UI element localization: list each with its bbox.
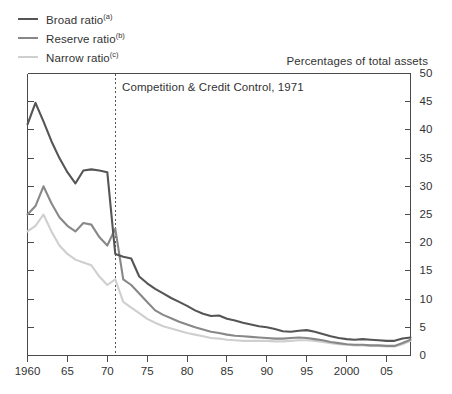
x-axis-tick-labels: 196065707580859095200005 [15,365,393,377]
x-axis-tick-label: 65 [61,365,74,377]
x-axis-tick-label: 75 [141,365,154,377]
series-line-narrow-ratio [28,215,411,347]
axes-group [28,74,411,356]
series-line-broad-ratio [28,103,411,341]
y-axis-tick-label: 15 [420,264,433,276]
x-axis-tick-label: 05 [380,365,393,377]
y-axis-tick-label: 25 [420,208,433,220]
x-axis-tick-label: 2000 [334,365,360,377]
x-axis-tick-label: 70 [101,365,114,377]
x-axis-tick-label: 1960 [15,365,41,377]
series-line-reserve-ratio [28,186,411,346]
y-axis-tick-label: 35 [420,152,433,164]
y-axis-ticks [28,74,411,356]
y-axis-tick-label: 20 [420,236,433,248]
y-axis-tick-label: 50 [420,67,433,79]
y-axis-tick-label: 0 [420,349,426,361]
x-axis-ticks [28,356,387,362]
y-axis-tick-label: 5 [420,321,426,333]
y-axis-tick-labels: 05101520253035404550 [420,67,433,361]
data-series-group [28,103,411,347]
y-axis-tick-label: 10 [420,293,433,305]
chart-plot-area: 05101520253035404550 1960657075808590952… [0,0,452,394]
chart-container: Broad ratio(a) Reserve ratio(b) Narrow r… [0,0,452,394]
x-axis-tick-label: 95 [300,365,313,377]
x-axis-tick-label: 80 [181,365,194,377]
x-axis-tick-label: 90 [260,365,273,377]
x-axis-tick-label: 85 [221,365,234,377]
y-axis-tick-label: 30 [420,180,433,192]
axis-frame [28,74,411,356]
y-axis-tick-label: 45 [420,95,433,107]
y-axis-tick-label: 40 [420,123,433,135]
